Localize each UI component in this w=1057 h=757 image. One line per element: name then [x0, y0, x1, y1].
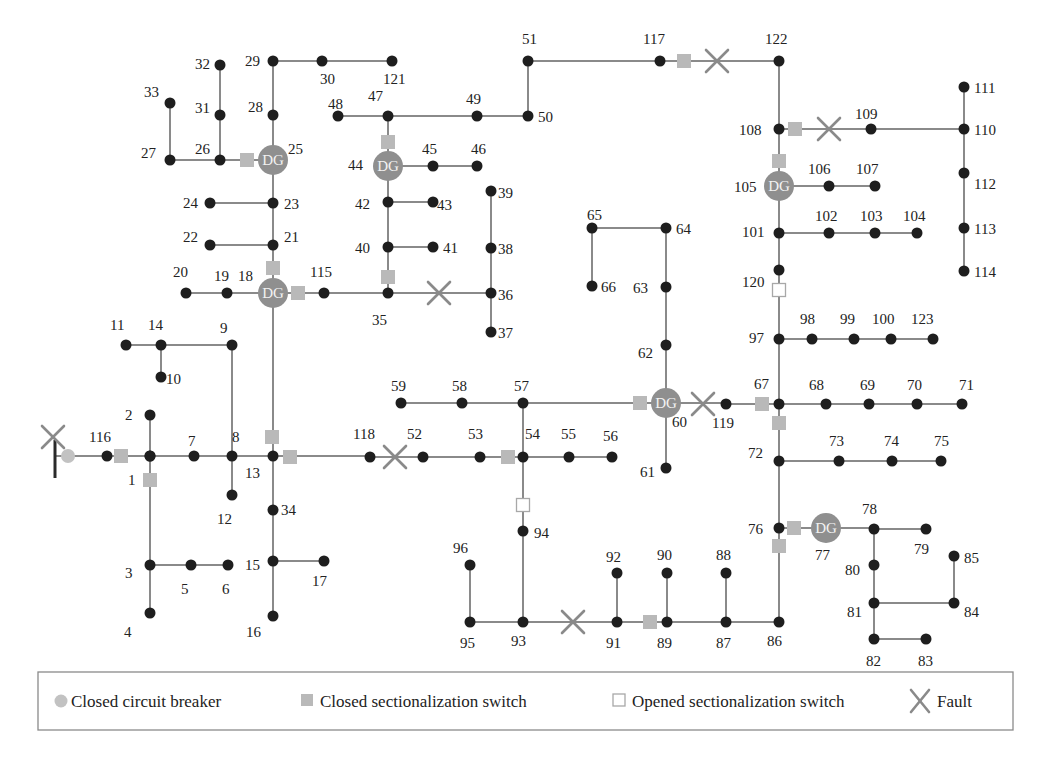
- bus-label: 28: [248, 99, 263, 115]
- bus-node: [774, 334, 785, 345]
- bus-node: [849, 334, 860, 345]
- bus-node: [165, 155, 176, 166]
- bus-node: [959, 223, 970, 234]
- bus-label: 41: [443, 240, 458, 256]
- bus-label: 13: [245, 465, 260, 481]
- legend-label-open-switch: Opened sectionalization switch: [632, 692, 845, 711]
- bus-node: [774, 56, 785, 67]
- bus-label: 46: [471, 141, 487, 157]
- bus-label: 75: [934, 433, 949, 449]
- bus-label: 97: [749, 330, 765, 346]
- bus-node: [774, 523, 785, 534]
- bus-node: [457, 398, 468, 409]
- bus-node: [181, 288, 192, 299]
- bus-label: 63: [633, 280, 648, 296]
- bus-node: [774, 456, 785, 467]
- bus-label: 116: [89, 429, 111, 445]
- bus-node: [824, 228, 835, 239]
- bus-node: [834, 456, 845, 467]
- bus-label: 70: [907, 377, 922, 393]
- bus-node: [959, 82, 970, 93]
- bus-node: [936, 456, 947, 467]
- bus-label: 1: [128, 472, 136, 488]
- closed-switch-icon: [265, 430, 279, 444]
- bus-label: 39: [498, 185, 513, 201]
- bus-node: [912, 399, 923, 410]
- bus-label: 71: [959, 377, 974, 393]
- bus-node: [887, 456, 898, 467]
- bus-label: 90: [657, 547, 672, 563]
- bus-label: 30: [320, 71, 335, 87]
- bus-node: [870, 181, 881, 192]
- closed-switch-icon: [772, 416, 786, 430]
- bus-node: [959, 168, 970, 179]
- bus-node: [268, 110, 279, 121]
- bus-label: 108: [739, 122, 762, 138]
- bus-label: 35: [372, 312, 387, 328]
- closed-switch-icon: [381, 270, 395, 284]
- bus-node: [428, 161, 439, 172]
- bus-label: 103: [860, 208, 883, 224]
- bus-node: [268, 56, 279, 67]
- bus-label: 49: [466, 91, 481, 107]
- bus-label: 105: [734, 179, 757, 195]
- bus-label: 50: [538, 109, 553, 125]
- bus-node: [165, 98, 176, 109]
- bus-label: 60: [672, 414, 687, 430]
- opened-sectionalization-switch-icon: [613, 694, 625, 706]
- bus-node: [824, 181, 835, 192]
- bus-node: [486, 243, 497, 254]
- legend-label-fault: Fault: [937, 692, 972, 711]
- bus-node: [215, 110, 226, 121]
- bus-label: 8: [232, 429, 240, 445]
- bus-label: 113: [974, 221, 996, 237]
- bus-label: 25: [288, 141, 303, 157]
- bus-node: [886, 334, 897, 345]
- dg-text: DG: [377, 158, 399, 174]
- bus-label: 92: [606, 549, 621, 565]
- bus-label: 77: [815, 547, 831, 563]
- bus-node: [486, 288, 497, 299]
- bus-label: 65: [587, 207, 602, 223]
- bus-label: 15: [245, 557, 260, 573]
- bus-node: [465, 617, 476, 628]
- bus-label: 11: [110, 317, 124, 333]
- open-switch-icon: [773, 284, 786, 297]
- dg-text: DG: [768, 178, 790, 194]
- bus-label: 107: [856, 161, 879, 177]
- bus-label: 6: [222, 581, 230, 597]
- bus-label: 100: [872, 311, 895, 327]
- bus-node: [145, 608, 156, 619]
- bus-node: [518, 617, 529, 628]
- bus-label: 117: [643, 31, 665, 47]
- bus-node: [102, 451, 113, 462]
- closed-circuit-breaker-icon: [55, 695, 68, 708]
- bus-label: 111: [974, 80, 995, 96]
- bus-node: [472, 161, 483, 172]
- closed-switch-icon: [381, 135, 395, 149]
- bus-label: 86: [767, 633, 783, 649]
- bus-label: 27: [141, 145, 157, 161]
- bus-node: [268, 451, 279, 462]
- bus-node: [227, 451, 238, 462]
- bus-node: [396, 398, 407, 409]
- legend-label-closed-switch: Closed sectionalization switch: [320, 692, 527, 711]
- closed-switch-icon: [240, 153, 254, 167]
- bus-node: [864, 399, 875, 410]
- bus-node: [607, 452, 618, 463]
- bus-label: 62: [638, 345, 653, 361]
- bus-node: [870, 228, 881, 239]
- bus-node: [486, 186, 497, 197]
- bus-node: [949, 551, 960, 562]
- bus-label: 68: [809, 377, 824, 393]
- closed-switch-icon: [291, 286, 305, 300]
- closed-switch-icon: [143, 473, 157, 487]
- bus-node: [774, 617, 785, 628]
- bus-label: 23: [284, 196, 299, 212]
- bus-node: [921, 524, 932, 535]
- bus-label: 87: [716, 635, 732, 651]
- bus-label: 121: [383, 71, 406, 87]
- bus-labels: 1234567891011121314151617192021222324262…: [89, 31, 996, 669]
- bus-node: [774, 228, 785, 239]
- bus-label: 82: [866, 653, 881, 669]
